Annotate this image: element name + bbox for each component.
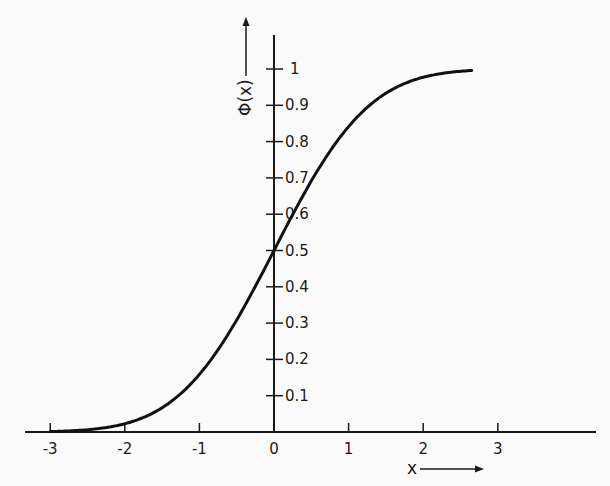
y-tick-label: 0.2 xyxy=(285,350,309,368)
y-tick-label: 0.7 xyxy=(285,169,309,187)
x-arrowhead-icon xyxy=(475,466,484,473)
y-arrowhead-icon xyxy=(243,17,250,26)
y-tick-label: 0.3 xyxy=(285,314,309,332)
y-ticks: 0.10.20.30.40.50.60.70.80.91 xyxy=(266,60,309,405)
y-tick-label: 0.8 xyxy=(285,133,309,151)
x-ticks: -3-2-10123 xyxy=(43,423,503,458)
x-tick-label: 2 xyxy=(418,440,428,458)
y-tick-label: 0.4 xyxy=(285,278,309,296)
chart: -3-2-10123 0.10.20.30.40.50.60.70.80.91 … xyxy=(0,0,610,486)
x-tick-label: 3 xyxy=(493,440,503,458)
x-tick-label: -3 xyxy=(43,440,58,458)
x-tick-label: 1 xyxy=(344,440,354,458)
x-tick-label: -1 xyxy=(192,440,207,458)
y-tick-label: 0.1 xyxy=(285,387,309,405)
y-tick-label: 1 xyxy=(290,60,300,78)
x-tick-label: 0 xyxy=(269,440,279,458)
y-tick-label: 0.9 xyxy=(285,96,309,114)
cdf-curve xyxy=(50,71,472,432)
x-tick-label: -2 xyxy=(117,440,132,458)
x-axis-label: x xyxy=(407,458,417,478)
y-tick-label: 0.5 xyxy=(285,242,309,260)
y-axis-label: Φ(x) xyxy=(235,79,255,116)
